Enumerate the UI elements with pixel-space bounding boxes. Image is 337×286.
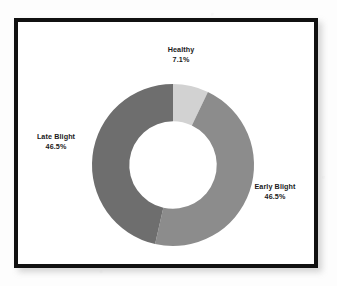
slice-label-early-blight-percent: 46.5% [232,192,318,202]
slice-label-late-blight-name: Late Blight [37,132,75,141]
slice-label-healthy: Healthy 7.1% [141,45,221,64]
slice-label-late-blight: Late Blight 46.5% [16,132,96,151]
slice-label-early-blight: Early Blight 46.5% [232,182,318,201]
slice-label-late-blight-percent: 46.5% [16,142,96,152]
slice-label-healthy-percent: 7.1% [141,55,221,65]
slice-label-healthy-name: Healthy [168,45,195,54]
scanned-page: Healthy 7.1% Late Blight 46.5% Early Bli… [0,0,337,286]
plot-area: Healthy 7.1% Late Blight 46.5% Early Bli… [18,22,314,264]
slice-label-early-blight-name: Early Blight [254,182,295,191]
chart-frame: Healthy 7.1% Late Blight 46.5% Early Bli… [14,18,318,268]
